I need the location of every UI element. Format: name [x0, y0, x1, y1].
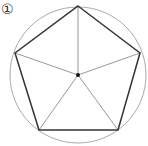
pentagon-diagram: [0, 0, 148, 146]
radius-line-1: [78, 53, 140, 75]
radius-line-4: [15, 53, 78, 75]
radius-line-2: [78, 75, 118, 130]
center-point: [76, 73, 80, 77]
radius-line-3: [39, 75, 78, 130]
